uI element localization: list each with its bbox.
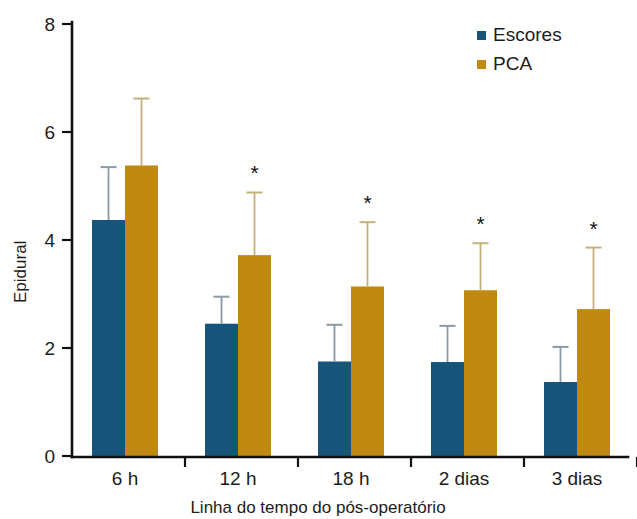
significance-marker: * (363, 191, 371, 214)
significance-marker: * (476, 212, 484, 235)
legend-swatch (477, 60, 486, 69)
bar (577, 309, 610, 456)
bar (318, 362, 351, 457)
x-tick-label: 6 h (112, 468, 138, 489)
y-tick-label: 2 (44, 338, 55, 359)
bar (544, 382, 577, 456)
chart-canvas: **** 02468 Epidural 6 h12 h18 h2 dias3 d… (0, 0, 637, 519)
x-tick-label: 2 dias (439, 468, 490, 489)
bar (464, 290, 497, 456)
bar (351, 286, 384, 456)
legend-label: PCA (493, 53, 532, 74)
bar (205, 324, 238, 456)
bar (125, 165, 158, 456)
x-tick-label: 18 h (333, 468, 370, 489)
x-tick-label: 3 dias (552, 468, 603, 489)
significance-marker: * (589, 217, 597, 240)
y-tick-label: 0 (44, 446, 55, 467)
bar-chart-figure: **** 02468 Epidural 6 h12 h18 h2 dias3 d… (0, 0, 637, 519)
y-tick-label: 8 (44, 14, 55, 35)
bar (238, 255, 271, 456)
significance-marker: * (250, 161, 258, 184)
legend-swatch (477, 31, 486, 40)
y-axis-title: Epidural (11, 241, 30, 303)
y-tick-label: 4 (44, 230, 55, 251)
x-tick-label: 12 h (220, 468, 257, 489)
y-tick-label: 6 (44, 122, 55, 143)
legend-label: Escores (493, 24, 562, 45)
x-axis-title: Linha do tempo do pós-operatório (190, 498, 445, 517)
bar (92, 220, 125, 456)
bar (431, 362, 464, 456)
